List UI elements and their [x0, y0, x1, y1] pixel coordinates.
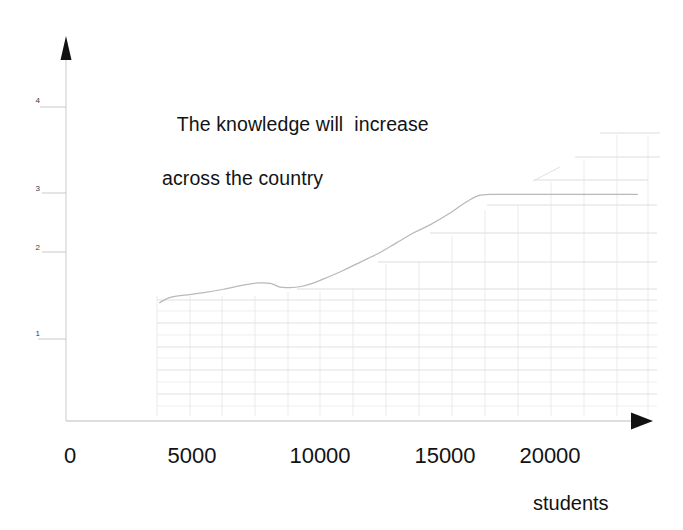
chart-title-line-2: across the country — [155, 165, 495, 192]
y-tick-label-4: 4 — [22, 96, 40, 105]
grid-lines-faint — [157, 311, 657, 406]
y-tick-label-3: 3 — [22, 184, 40, 193]
x-tick-label-10000: 10000 — [275, 443, 365, 469]
scan-artifact — [533, 167, 560, 181]
x-tick-label-15000: 15000 — [400, 443, 490, 469]
y-axis-arrow-icon — [61, 36, 72, 60]
chart-canvas: The knowledge will increase across the c… — [0, 0, 683, 530]
x-tick-label-0: 0 — [50, 443, 90, 469]
x-tick-label-20000: 20000 — [505, 443, 595, 469]
grid-lines — [157, 300, 657, 394]
y-tick-label-1: 1 — [22, 329, 40, 338]
y-axis-ticks — [38, 107, 66, 339]
x-axis-arrow-icon — [631, 413, 653, 430]
x-axis-label: students — [533, 492, 609, 515]
y-tick-label-2: 2 — [22, 243, 40, 252]
x-tick-label-5000: 5000 — [152, 443, 232, 469]
chart-title-line-1: The knowledge will increase — [177, 113, 429, 135]
chart-title: The knowledge will increase across the c… — [155, 84, 495, 246]
